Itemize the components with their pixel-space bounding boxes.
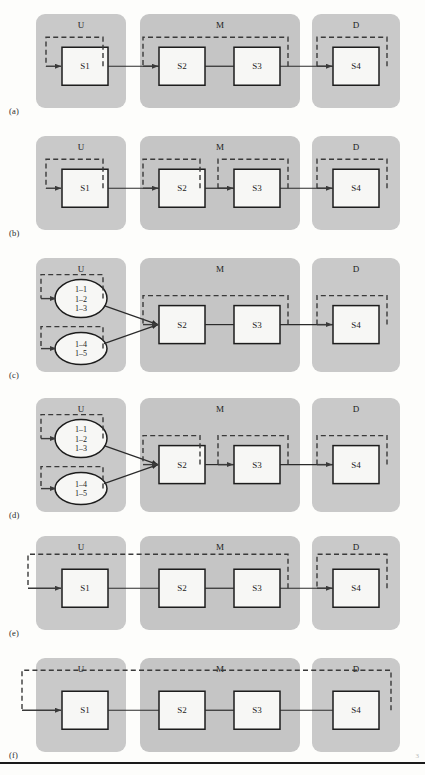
stage-label-M: M [216, 542, 224, 552]
process-box-s4: S4 [333, 446, 379, 484]
process-box-s3: S3 [234, 446, 280, 484]
stage-label-D: D [353, 20, 360, 30]
stage-label-D: D [353, 142, 360, 152]
subfigure-diagram-a: UMDS1S2S3S4 [0, 8, 425, 120]
cluster-label: 1–2 [75, 295, 87, 304]
subfigure-c: UMD1–11–21–31–41–5S2S3S4(c) [0, 252, 425, 384]
process-box-s1: S1 [62, 169, 108, 207]
process-box-label: S4 [351, 183, 361, 193]
stage-label-D: D [353, 542, 360, 552]
process-box-label: S3 [252, 460, 262, 470]
process-box-label: S2 [177, 583, 187, 593]
footer-rule [0, 762, 425, 764]
process-box-s4: S4 [333, 47, 379, 85]
cluster-node-2: 1–41–5 [55, 333, 107, 365]
subfigure-diagram-f: UMDS1S2S3S4 [0, 652, 425, 764]
subfigure-diagram-b: UMDS1S2S3S4 [0, 130, 425, 242]
stage-label-D: D [353, 404, 360, 414]
cluster-label: 1–5 [75, 489, 87, 498]
stage-label-M: M [216, 664, 224, 674]
process-box-s2: S2 [159, 306, 205, 344]
subfigure-label-c: (c) [9, 370, 19, 380]
process-box-s1: S1 [62, 691, 108, 729]
process-box-label: S3 [252, 61, 262, 71]
process-box-s3: S3 [234, 47, 280, 85]
process-box-label: S2 [177, 320, 187, 330]
subfigure-d: UMD1–11–21–31–41–5S2S3S4(d) [0, 392, 425, 524]
cluster-node-2: 1–41–5 [55, 473, 107, 505]
cluster-label: 1–3 [75, 444, 87, 453]
process-box-label: S3 [252, 583, 262, 593]
cluster-label: 1–3 [75, 304, 87, 313]
cluster-label: 1–4 [75, 340, 87, 349]
process-box-label: S4 [351, 320, 361, 330]
process-box-s2: S2 [159, 569, 205, 607]
process-box-label: S3 [252, 705, 262, 715]
stage-label-M: M [216, 264, 224, 274]
cluster-label: 1–4 [75, 480, 87, 489]
process-box-label: S2 [177, 61, 187, 71]
process-box-s2: S2 [159, 47, 205, 85]
stage-label-U: U [78, 542, 85, 552]
subfigure-a: UMDS1S2S3S4(a) [0, 8, 425, 120]
process-box-s1: S1 [62, 47, 108, 85]
process-box-s2: S2 [159, 691, 205, 729]
stage-label-D: D [353, 264, 360, 274]
subfigure-label-d: (d) [9, 510, 20, 520]
subfigure-b: UMDS1S2S3S4(b) [0, 130, 425, 242]
process-box-label: S2 [177, 183, 187, 193]
process-box-label: S1 [80, 183, 90, 193]
process-box-s4: S4 [333, 306, 379, 344]
cluster-node-1: 1–11–21–3 [55, 420, 107, 458]
process-box-label: S3 [252, 183, 262, 193]
subfigure-diagram-d: UMD1–11–21–31–41–5S2S3S4 [0, 392, 425, 524]
process-box-label: S1 [80, 583, 90, 593]
stage-label-D: D [353, 664, 360, 674]
figure-page: UMDS1S2S3S4(a)UMDS1S2S3S4(b)UMD1–11–21–3… [0, 0, 425, 775]
subfigure-diagram-e: UMDS1S2S3S4 [0, 530, 425, 642]
subfigure-label-b: (b) [9, 228, 20, 238]
cluster-label: 1–5 [75, 349, 87, 358]
process-box-s1: S1 [62, 569, 108, 607]
process-box-s3: S3 [234, 169, 280, 207]
process-box-s3: S3 [234, 306, 280, 344]
process-box-label: S4 [351, 61, 361, 71]
stage-label-M: M [216, 142, 224, 152]
process-box-label: S4 [351, 460, 361, 470]
subfigure-diagram-c: UMD1–11–21–31–41–5S2S3S4 [0, 252, 425, 384]
stage-label-U: U [78, 404, 85, 414]
stage-label-U: U [78, 664, 85, 674]
process-box-label: S4 [351, 705, 361, 715]
stage-label-U: U [78, 142, 85, 152]
process-box-label: S3 [252, 320, 262, 330]
process-box-s3: S3 [234, 691, 280, 729]
subfigure-e: UMDS1S2S3S4(e) [0, 530, 425, 642]
process-box-label: S4 [351, 583, 361, 593]
process-box-s4: S4 [333, 691, 379, 729]
process-box-label: S1 [80, 61, 90, 71]
subfigure-label-f: (f) [9, 750, 18, 760]
cluster-label: 1–2 [75, 435, 87, 444]
stage-label-M: M [216, 404, 224, 414]
cluster-node-1: 1–11–21–3 [55, 280, 107, 318]
process-box-s2: S2 [159, 169, 205, 207]
process-box-s3: S3 [234, 569, 280, 607]
cluster-label: 1–1 [75, 285, 87, 294]
subfigure-label-e: (e) [9, 628, 19, 638]
stage-label-M: M [216, 20, 224, 30]
cluster-label: 1–1 [75, 425, 87, 434]
process-box-label: S1 [80, 705, 90, 715]
stage-label-U: U [78, 264, 85, 274]
process-box-label: S2 [177, 705, 187, 715]
process-box-label: S2 [177, 460, 187, 470]
process-box-s4: S4 [333, 569, 379, 607]
subfigure-f: UMDS1S2S3S4(f) [0, 652, 425, 764]
process-box-s2: S2 [159, 446, 205, 484]
process-box-s4: S4 [333, 169, 379, 207]
subfigure-label-a: (a) [9, 106, 19, 116]
stage-label-U: U [78, 20, 85, 30]
footer-page-mark: 3 [416, 752, 420, 760]
